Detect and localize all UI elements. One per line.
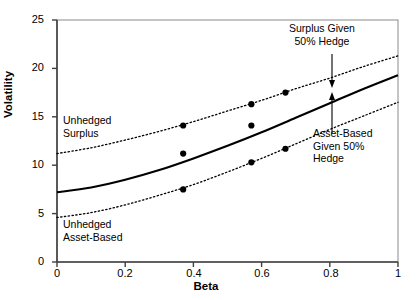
x-tick-label-1: 1 [386,268,410,279]
y-tick-label-20: 20 [20,62,44,73]
x-tick-label-0-2: 0.2 [113,268,137,279]
chart-figure: 25 20 15 10 5 0 0 0.2 0.4 0.6 0.8 1 Vola… [0,0,420,300]
data-point-0 [180,122,186,128]
x-tick-label-0-6: 0.6 [250,268,274,279]
y-tick-label-15: 15 [20,111,44,122]
y-tick-label-0: 0 [20,256,44,267]
data-point-2 [282,90,288,96]
y-tick-label-25: 25 [20,14,44,25]
x-tick-label-0-8: 0.8 [319,268,343,279]
y-tick-label-10: 10 [20,159,44,170]
y-tick-label-5: 5 [20,208,44,219]
annotation-surplus-given-50-hedge: Surplus Given 50% Hedge [289,22,355,47]
x-axis-title: Beta [194,281,219,293]
annotation-asset-based-given-50-hedge: Asset-Based Given 50% Hedge [313,127,373,165]
data-point-4 [248,122,254,128]
data-point-7 [282,146,288,152]
data-point-5 [180,186,186,192]
x-tick-label-0: 0 [45,268,69,279]
data-point-1 [248,101,254,107]
annotation-unhedged-asset-based: Unhedged Asset-Based [63,218,123,243]
annotation-unhedged-surplus: Unhedged Surplus [63,114,111,139]
data-point-3 [180,150,186,156]
y-axis-title: Volatility [3,71,15,118]
x-tick-label-0-4: 0.4 [182,268,206,279]
data-point-6 [248,159,254,165]
